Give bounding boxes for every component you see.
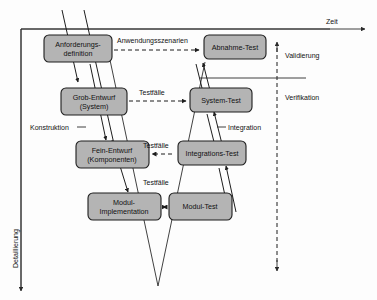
detail-axis-label: Detaillierung <box>12 229 20 268</box>
time-axis: Zeit <box>21 18 365 29</box>
right-branch-flow-arrows <box>196 63 236 214</box>
link-testfaelle-integration-label: Testfälle <box>143 142 169 149</box>
diagram-frame <box>21 29 330 290</box>
box-modul-implementation-line2: Implementation <box>99 207 148 216</box>
level-2-group: Grob-Entwurf (System) System-Test Testfä… <box>61 88 252 115</box>
box-fein-entwurf-line1: Fein-Entwurf <box>92 146 133 155</box>
level-1-group: Anforderungs- definition Abnahme-Test An… <box>44 35 266 62</box>
box-modul-test-label: Modul-Test <box>182 202 217 211</box>
v-model-diagram: Zeit Detaillierung Validierung Verifikat… <box>0 0 377 300</box>
box-fein-entwurf-line2: (Komponenten) <box>87 155 137 164</box>
link-testfaelle-modul-label: Testfälle <box>143 179 169 186</box>
time-axis-label: Zeit <box>326 18 338 25</box>
box-abnahme-test-label: Abnahme-Test <box>212 43 258 52</box>
konstruktion-label: Konstruktion <box>30 124 69 131</box>
mid-annotations: Konstruktion Integration <box>30 124 261 132</box>
box-integrations-test-label: Integrations-Test <box>185 149 238 158</box>
box-modul-implementation-line1: Modul- <box>113 198 136 207</box>
validierung-label: Validierung <box>285 52 320 60</box>
link-anwendungsszenarien-label: Anwendungsszenarien <box>117 37 188 45</box>
box-grob-entwurf-line2: (System) <box>80 102 109 111</box>
box-system-test-label: System-Test <box>201 96 241 105</box>
box-grob-entwurf-line1: Grob-Entwurf <box>73 93 116 102</box>
box-anforderungsdefinition-line2: definition <box>64 49 93 58</box>
level-3-group: Fein-Entwurf (Komponenten) Integrations-… <box>76 141 246 168</box>
box-anforderungsdefinition-line1: Anforderungs- <box>55 40 101 49</box>
level-4-group: Modul- Implementation Modul-Test Testfäl… <box>88 179 232 220</box>
integration-label: Integration <box>228 124 261 132</box>
link-testfaelle-system-label: Testfälle <box>139 89 165 96</box>
detail-axis: Detaillierung <box>12 29 21 291</box>
verifikation-label: Verifikation <box>285 94 319 101</box>
v-model-diagram-page: Zeit Detaillierung Validierung Verifikat… <box>0 0 377 300</box>
